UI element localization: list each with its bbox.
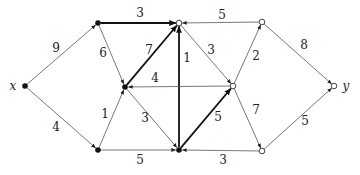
edge-C-B bbox=[182, 22, 259, 23]
edge-weight-label: 5 bbox=[301, 114, 309, 128]
edge-weight-label: 5 bbox=[136, 153, 144, 167]
edge-H-G bbox=[182, 150, 259, 151]
edge-weight-label: 7 bbox=[252, 103, 260, 117]
edge-weight-label: 3 bbox=[207, 43, 215, 57]
node-label-y: y bbox=[342, 79, 350, 93]
edge-E-H bbox=[234, 89, 261, 148]
edge-H-y bbox=[264, 88, 331, 149]
edge-x-A bbox=[27, 25, 95, 84]
edges-layer bbox=[27, 22, 331, 151]
edge-weight-label: 4 bbox=[151, 71, 159, 85]
node-y bbox=[331, 83, 337, 89]
edge-weight-label: 9 bbox=[52, 41, 60, 55]
node-x bbox=[22, 83, 28, 89]
node-G bbox=[176, 147, 182, 153]
edge-weight-label: 3 bbox=[219, 153, 227, 167]
graph-diagram: 943675132841355375 xy bbox=[0, 0, 360, 175]
edge-x-F bbox=[27, 88, 95, 148]
edge-weight-label: 5 bbox=[218, 8, 226, 22]
node-H bbox=[259, 148, 265, 154]
edge-D-G bbox=[127, 89, 177, 147]
edge-weight-label: 2 bbox=[252, 49, 260, 63]
node-label-x: x bbox=[10, 79, 17, 93]
edge-C-y bbox=[264, 24, 331, 84]
edge-weight-label: 3 bbox=[136, 6, 144, 20]
edge-weight-label: 1 bbox=[183, 51, 191, 65]
edge-weight-label: 5 bbox=[214, 110, 222, 124]
node-E bbox=[230, 83, 236, 89]
edge-G-E bbox=[181, 89, 231, 148]
node-D bbox=[122, 84, 128, 90]
edge-weight-label: 1 bbox=[101, 107, 109, 121]
edge-weight-label: 6 bbox=[99, 46, 107, 60]
edge-weight-label: 4 bbox=[52, 120, 60, 134]
node-C bbox=[259, 19, 265, 25]
node-F bbox=[95, 147, 101, 153]
edge-weight-label: 8 bbox=[300, 38, 308, 52]
node-B bbox=[176, 20, 182, 26]
edge-E-D bbox=[128, 86, 230, 87]
edge-weight-label: 3 bbox=[141, 111, 149, 125]
node-A bbox=[95, 20, 101, 26]
edge-weight-label: 7 bbox=[145, 43, 153, 57]
